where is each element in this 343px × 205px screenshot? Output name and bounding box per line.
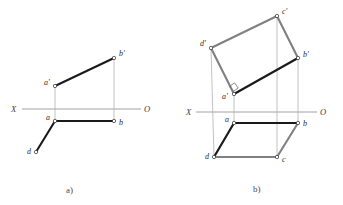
point-label-d: d — [27, 147, 32, 156]
vertex-a — [53, 119, 56, 122]
axis-label-x-panel-a: X — [10, 104, 17, 114]
segment-a-prime-b-prime — [234, 58, 298, 94]
point-label-b: b — [303, 119, 307, 128]
vertex-d — [34, 150, 37, 153]
segment-a-d — [214, 123, 234, 157]
vertex-a — [232, 121, 235, 124]
caption-panel-b: b) — [253, 184, 261, 194]
segment-a-d — [36, 121, 55, 152]
panel-b: X O c' d' b' a' a b d c b) — [185, 7, 326, 194]
axis-label-o-panel-a: O — [144, 104, 150, 114]
vertex-a-prime — [53, 84, 56, 87]
figure-root: X O b' a' a b d a) — [0, 0, 343, 205]
caption-panel-a: a) — [66, 185, 73, 195]
point-label-c-prime: c' — [282, 7, 288, 16]
axis-label-o-panel-b: O — [320, 107, 326, 117]
segment-b-c — [277, 123, 298, 157]
axis-label-x-panel-b: X — [185, 107, 192, 117]
point-label-b-prime: b' — [303, 50, 309, 59]
point-label-a: a — [46, 113, 50, 122]
point-label-a-prime: a' — [44, 78, 50, 87]
point-label-d-prime: d' — [200, 39, 206, 48]
vertex-c — [275, 155, 278, 158]
point-label-c: c — [282, 155, 286, 164]
vertex-b-prime — [296, 56, 299, 59]
vertex-b-prime — [112, 56, 115, 59]
point-label-a: a — [225, 115, 229, 124]
point-label-d: d — [205, 152, 210, 161]
vertex-d-prime — [209, 46, 212, 49]
vertex-a-prime — [232, 92, 235, 95]
segment-a-prime-b-prime — [55, 58, 114, 86]
point-label-b: b — [119, 118, 123, 127]
point-label-b-prime: b' — [119, 49, 125, 58]
projection-drawing: X O b' a' a b d a) — [0, 0, 343, 205]
projector-d — [211, 48, 214, 157]
point-label-a-prime: a' — [222, 92, 228, 101]
vertex-b — [112, 119, 115, 122]
panel-a: X O b' a' a b d a) — [10, 49, 150, 195]
vertex-c-prime — [275, 14, 278, 17]
vertex-b — [296, 121, 299, 124]
vertex-d — [212, 155, 215, 158]
segment-d-prime-c-prime — [211, 16, 277, 48]
segment-c-prime-b-prime — [277, 16, 298, 58]
